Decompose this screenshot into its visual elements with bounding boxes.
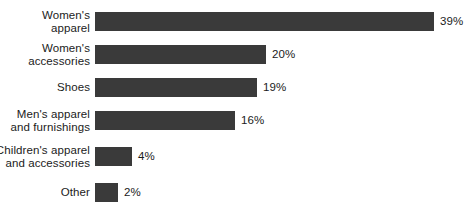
category-label: Men's apparel and furnishings: [0, 108, 90, 134]
bar-track: 16%: [95, 111, 264, 130]
category-label: Children's apparel and accessories: [0, 144, 90, 170]
chart-row: Shoes 19%: [0, 78, 471, 97]
category-label: Women's apparel: [0, 9, 90, 35]
chart-row: Men's apparel and furnishings 16%: [0, 111, 471, 130]
bar-value-label: 39%: [440, 12, 463, 31]
bar-value-label: 2%: [124, 183, 141, 202]
bar-segment: [95, 111, 235, 130]
bar-track: 19%: [95, 78, 286, 97]
bar-track: 39%: [95, 12, 463, 31]
bar-track: 2%: [95, 183, 141, 202]
bar-segment: [95, 45, 266, 64]
bar-value-label: 19%: [263, 78, 286, 97]
category-label: Women's accessories: [0, 42, 90, 68]
bar-value-label: 4%: [138, 147, 155, 166]
chart-row: Women's apparel 39%: [0, 12, 471, 31]
category-label: Other: [0, 186, 90, 199]
horizontal-bar-chart: Women's apparel 39% Women's accessories …: [0, 0, 471, 214]
chart-row: Other 2%: [0, 183, 471, 202]
chart-row: Women's accessories 20%: [0, 45, 471, 64]
bar-value-label: 16%: [241, 111, 264, 130]
bar-segment: [95, 147, 132, 166]
bar-segment: [95, 12, 434, 31]
bar-segment: [95, 183, 118, 202]
bar-segment: [95, 78, 257, 97]
chart-row: Children's apparel and accessories 4%: [0, 147, 471, 166]
category-label: Shoes: [0, 81, 90, 94]
bar-value-label: 20%: [272, 45, 295, 64]
bar-track: 4%: [95, 147, 155, 166]
bar-track: 20%: [95, 45, 295, 64]
